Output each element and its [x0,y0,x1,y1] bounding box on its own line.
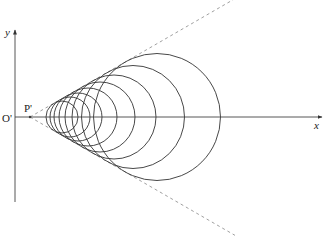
axes [15,30,322,202]
x-axis-label: x [313,119,319,131]
vertex-label: P' [24,102,32,114]
origin-label: O' [2,112,12,124]
y-axis-label: y [4,26,10,38]
cone-lines [29,0,235,235]
diagram-canvas: y x O' P' [0,0,326,239]
